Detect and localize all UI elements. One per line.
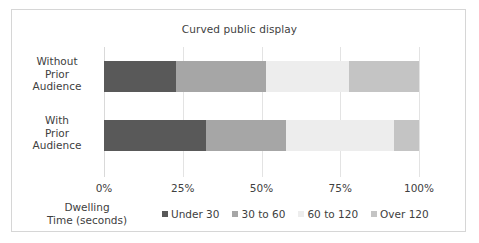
bar-segment	[394, 120, 419, 151]
x-tick-label-0: 0%	[96, 182, 113, 194]
axis-title: Dwelling Time (seconds)	[24, 201, 150, 226]
legend-item[interactable]: Over 120	[371, 208, 429, 220]
category-label-with-prior-audience: With Prior Audience	[14, 114, 100, 152]
bar-segment	[206, 120, 286, 151]
category-label-line: Prior	[14, 127, 100, 140]
legend-item[interactable]: 30 to 60	[232, 208, 285, 220]
category-label-line: Prior	[14, 68, 100, 81]
bar-segment	[104, 61, 176, 92]
axis-title-line: Dwelling	[24, 201, 150, 214]
axis-title-line: Time (seconds)	[24, 214, 150, 227]
x-axis-tick-labels: 0%25%50%75%100%	[104, 182, 419, 198]
stacked-bar-with-prior-audience	[104, 120, 419, 151]
legend-label: 30 to 60	[241, 208, 285, 220]
legend-item[interactable]: Under 30	[162, 208, 219, 220]
x-tick-label-50: 50%	[250, 182, 273, 194]
legend-swatch-icon	[232, 211, 238, 217]
bar-segment	[266, 61, 349, 92]
legend-label: Over 120	[380, 208, 429, 220]
legend-label: 60 to 120	[307, 208, 358, 220]
category-label-line: Without	[14, 55, 100, 68]
category-label-line: Audience	[14, 139, 100, 152]
plot-area	[104, 47, 419, 177]
chart-title: Curved public display	[12, 23, 467, 35]
bar-segment	[349, 61, 419, 92]
legend-swatch-icon	[371, 211, 377, 217]
stacked-bar-without-prior-audience	[104, 61, 419, 92]
chart-figure: Curved public display Without Prior Audi…	[11, 9, 466, 232]
legend-label: Under 30	[171, 208, 219, 220]
x-tick-label-25: 25%	[171, 182, 194, 194]
legend-swatch-icon	[162, 211, 168, 217]
x-tick-label-100: 100%	[404, 182, 434, 194]
category-label-line: With	[14, 114, 100, 127]
gridline-100	[419, 47, 420, 177]
x-tick-label-75: 75%	[329, 182, 352, 194]
bar-segment	[176, 61, 265, 92]
bar-segment	[286, 120, 394, 151]
legend-swatch-icon	[298, 211, 304, 217]
legend-item[interactable]: 60 to 120	[298, 208, 358, 220]
category-label-line: Audience	[14, 80, 100, 93]
category-label-without-prior-audience: Without Prior Audience	[14, 55, 100, 93]
bar-segment	[104, 120, 206, 151]
chart-legend: Under 3030 to 6060 to 120Over 120	[162, 206, 460, 222]
